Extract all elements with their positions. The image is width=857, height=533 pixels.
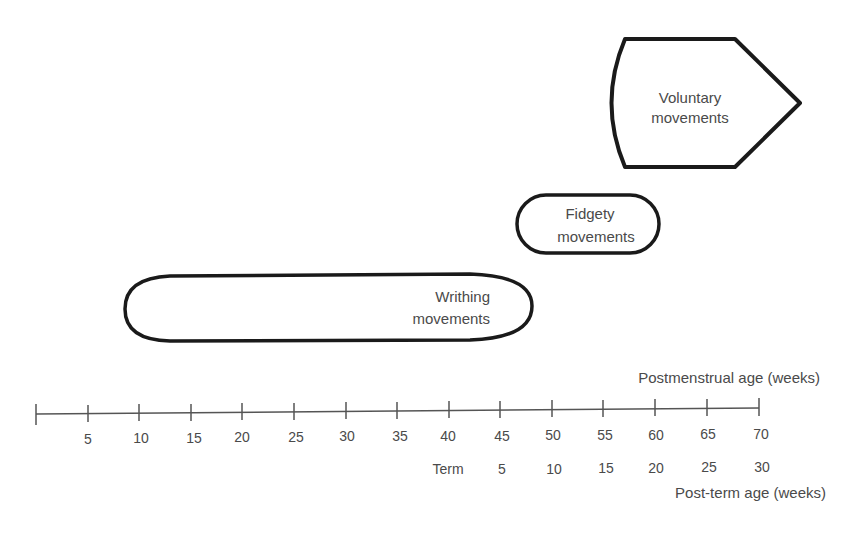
- fidgety-movements-shape: Fidgety movements: [517, 195, 659, 253]
- fidgety-label-line2: movements: [557, 228, 635, 245]
- tick-label: 25: [288, 429, 304, 445]
- tick-label: Term: [432, 461, 463, 477]
- axis-ticks: [36, 398, 759, 425]
- fidgety-label-line1: Fidgety: [565, 205, 615, 222]
- postmenstrual-tick-labels: 5 10 15 20 25 30 35 40 45 50 55 60 65 70: [84, 426, 769, 447]
- tick-label: 5: [498, 461, 506, 477]
- tick-label: 45: [494, 428, 510, 444]
- tick-label: 35: [392, 428, 408, 444]
- tick-label: 50: [545, 427, 561, 443]
- voluntary-label-line2: movements: [651, 109, 729, 126]
- gm-timeline-diagram: Voluntary movements Fidgety movements Wr…: [0, 0, 857, 533]
- tick-label: 20: [648, 460, 664, 476]
- voluntary-movements-shape: Voluntary movements: [612, 39, 801, 167]
- writhing-label-line2: movements: [412, 310, 490, 327]
- postterm-axis-label: Post-term age (weeks): [675, 484, 826, 501]
- tick-label: 10: [133, 430, 149, 446]
- tick-label: 60: [648, 427, 664, 443]
- tick-label: 65: [700, 426, 716, 442]
- age-axis: Postmenstrual age (weeks) 5 10 15 20 25: [36, 369, 826, 501]
- writhing-label-line1: Writhing: [435, 288, 490, 305]
- tick-label: 15: [186, 430, 202, 446]
- tick-label: 5: [84, 431, 92, 447]
- tick-label: 15: [598, 460, 614, 476]
- tick-label: 25: [701, 459, 717, 475]
- tick-label: 20: [234, 429, 250, 445]
- tick-label: 30: [754, 459, 770, 475]
- tick-label: 70: [753, 426, 769, 442]
- writhing-movements-shape: Writhing movements: [125, 274, 532, 341]
- tick-label: 10: [546, 461, 562, 477]
- tick-label: 55: [597, 427, 613, 443]
- voluntary-label-line1: Voluntary: [659, 89, 722, 106]
- tick-label: 30: [339, 428, 355, 444]
- tick-label: 40: [440, 428, 456, 444]
- postmenstrual-axis-label: Postmenstrual age (weeks): [638, 369, 820, 386]
- postterm-tick-labels: Term 5 10 15 20 25 30: [432, 459, 770, 477]
